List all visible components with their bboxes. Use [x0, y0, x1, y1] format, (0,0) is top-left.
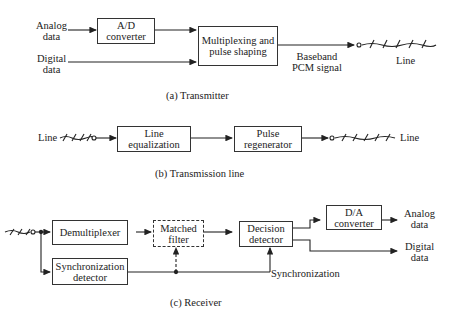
- decision-detector-block: Decision detector: [239, 221, 293, 247]
- matched-filter-block: Matched filter: [153, 220, 204, 247]
- digital-data-input-label: Digital data: [37, 53, 66, 75]
- ad-converter-block: A/D converter: [97, 18, 155, 44]
- line-label-out: Line: [400, 132, 419, 143]
- caption-transmitter: (a) Transmitter: [166, 90, 229, 101]
- caption-transmission: (b) Transmission line: [155, 168, 244, 179]
- demultiplexer-block: Demultiplexer: [52, 220, 128, 245]
- analog-data-output-label: Analog data: [404, 208, 435, 230]
- sync-detector-block: Synchronization detector: [52, 258, 128, 285]
- multiplexing-block: Multiplexing and pulse shaping: [198, 26, 278, 66]
- sync-detector-label: Synchronization detector: [56, 261, 125, 283]
- synchronization-label: Synchronization: [271, 268, 340, 279]
- pulse-regenerator-label: Pulse regenerator: [244, 128, 292, 150]
- ad-converter-label: A/D converter: [106, 20, 146, 42]
- analog-data-input-label: Analog data: [36, 20, 67, 42]
- line-label-tx: Line: [396, 55, 415, 66]
- line-label-in: Line: [38, 132, 57, 143]
- matched-filter-label: Matched filter: [160, 223, 197, 245]
- decision-detector-label: Decision detector: [247, 223, 284, 245]
- pulse-regenerator-block: Pulse regenerator: [234, 126, 302, 152]
- da-converter-block: D/A converter: [326, 205, 382, 230]
- multiplexing-label: Multiplexing and pulse shaping: [202, 35, 275, 57]
- da-converter-label: D/A converter: [334, 207, 374, 229]
- demultiplexer-label: Demultiplexer: [60, 227, 121, 238]
- baseband-pcm-label: Baseband PCM signal: [292, 51, 342, 73]
- line-equalization-block: Line equalization: [117, 126, 191, 152]
- caption-receiver: (c) Receiver: [170, 297, 222, 308]
- digital-data-output-label: Digital data: [405, 241, 434, 263]
- line-equalization-label: Line equalization: [128, 128, 179, 150]
